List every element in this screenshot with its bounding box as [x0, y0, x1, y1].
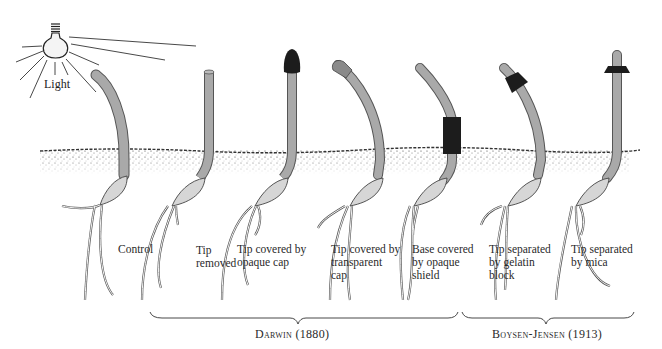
phototropism-diagram: Light Control Tip removed Tip covered by… — [0, 0, 662, 349]
group-label-boysen-jensen: Boysen-Jensen (1913) — [492, 327, 602, 342]
seedling-control — [62, 75, 127, 300]
label-mica: Tip separated by mica — [571, 243, 633, 269]
darwin-brace — [150, 312, 458, 324]
mica-barrier — [604, 66, 630, 73]
opaque-shield — [443, 117, 461, 154]
light-label: Light — [44, 77, 70, 92]
label-opaque-cap: Tip covered by opaque cap — [237, 243, 306, 269]
label-control: Control — [118, 243, 153, 256]
label-gelatin-block: Tip separated by gelatin block — [489, 243, 551, 282]
boysen-jensen-brace — [462, 312, 634, 324]
opaque-cap — [284, 49, 300, 74]
soil-surface — [40, 148, 640, 177]
group-label-darwin: Darwin (1880) — [255, 327, 329, 342]
label-opaque-shield: Base covered by opaque shield — [412, 243, 474, 282]
label-transparent-cap: Tip covered by transparent cap — [331, 243, 400, 282]
label-tip-removed: Tip removed — [196, 244, 236, 270]
